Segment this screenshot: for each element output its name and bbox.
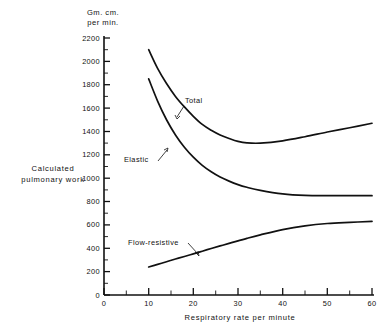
x-tick-label: 50 [323,299,332,308]
series-annotation-elastic: Elastic [124,155,149,164]
x-tick-label: 60 [368,299,377,308]
x-axis-ticks [104,288,372,295]
y-axis-ticks [104,38,110,295]
leader-line-flow-resistive [188,243,198,254]
x-axis-title: Respiratory rate per minute [185,313,296,322]
series-annotation-flow-resistive: Flow-resistive [128,238,179,247]
series-line-elastic [149,79,372,196]
y-tick-label: 1400 [82,127,100,136]
y-axis-title-line1: Calculated [32,164,75,173]
y-tick-label: 200 [87,267,100,276]
x-tick-label: 10 [144,299,153,308]
y-tick-label: 1200 [82,150,100,159]
leader-line-elastic [158,150,167,161]
y-axis-tick-labels: 0 200 400 600 800 1000 1200 1400 1600 18… [82,34,100,300]
series-annotation-total: Total [185,96,203,105]
x-tick-label: 20 [189,299,198,308]
x-axis-tick-labels: 0 10 20 30 40 50 60 [102,299,377,308]
y-tick-label: 1600 [82,104,100,113]
pulmonary-work-chart: Gm. cm. per min. Calculated pulmonary wo… [0,0,384,328]
y-tick-label: 1000 [82,174,100,183]
x-tick-label: 40 [278,299,287,308]
y-tick-label: 0 [96,291,100,300]
y-tick-label: 2000 [82,57,100,66]
y-axis-title-line2: pulmonary work [21,175,84,184]
leader-line-total [177,106,184,117]
y-tick-label: 600 [87,220,100,229]
y-tick-label: 800 [87,197,100,206]
series-line-flow-resistive [149,221,372,267]
y-axis-unit-line1: Gm. cm. [87,8,119,17]
y-axis-unit-line2: per min. [87,18,118,27]
y-tick-label: 400 [87,244,100,253]
x-tick-label: 30 [234,299,243,308]
chart-svg: Gm. cm. per min. Calculated pulmonary wo… [0,0,384,328]
series-line-total [149,50,372,144]
y-tick-label: 2200 [82,34,100,43]
y-tick-label: 1800 [82,80,100,89]
x-tick-label: 0 [102,299,106,308]
